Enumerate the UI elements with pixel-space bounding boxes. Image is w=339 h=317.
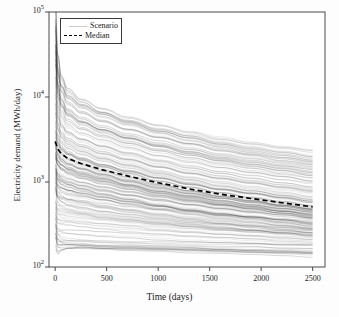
x-tick-label: 500 — [87, 274, 127, 283]
chart-figure: 102103104105 05001000150020002500 Time (… — [0, 0, 339, 317]
legend-item-median: Median — [64, 31, 118, 41]
y-tick-label: 102 — [24, 261, 44, 270]
x-axis-label: Time (days) — [0, 292, 339, 302]
legend-swatch-median — [64, 32, 82, 40]
legend-label-scenario: Scenario — [90, 21, 118, 31]
legend-swatch-scenario — [69, 22, 87, 30]
x-axis-ticks — [55, 267, 312, 271]
x-tick-label: 0 — [35, 274, 75, 283]
legend-item-scenario: Scenario — [64, 21, 118, 31]
y-tick-label: 103 — [24, 176, 44, 185]
y-axis-ticks — [45, 12, 49, 267]
x-tick-label: 2500 — [293, 274, 333, 283]
chart-legend: Scenario Median — [60, 18, 122, 44]
chart-canvas — [0, 0, 339, 317]
legend-label-median: Median — [85, 31, 109, 41]
x-tick-label: 2000 — [241, 274, 281, 283]
y-axis-label: Electricity demand (MWh/day) — [12, 65, 22, 225]
x-tick-label: 1000 — [138, 274, 178, 283]
y-tick-label: 104 — [24, 91, 44, 100]
x-tick-label: 1500 — [190, 274, 230, 283]
y-tick-label: 105 — [24, 6, 44, 15]
